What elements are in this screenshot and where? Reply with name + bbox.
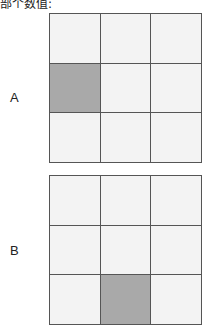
shaded-cell bbox=[101, 275, 151, 324]
cell bbox=[101, 113, 151, 162]
cell bbox=[151, 226, 201, 275]
cell bbox=[151, 275, 201, 324]
cell bbox=[50, 176, 100, 225]
caption-text: 部个数值: bbox=[0, 0, 52, 11]
cell bbox=[151, 64, 201, 113]
cell bbox=[151, 14, 201, 63]
label-b: B bbox=[10, 243, 19, 258]
cell bbox=[50, 113, 100, 162]
cell bbox=[101, 226, 151, 275]
label-a: A bbox=[10, 90, 19, 105]
cell bbox=[101, 14, 151, 63]
cell bbox=[151, 113, 201, 162]
grid-b bbox=[49, 175, 202, 325]
cell bbox=[50, 226, 100, 275]
shaded-cell bbox=[50, 64, 100, 113]
cell bbox=[50, 275, 100, 324]
cell bbox=[151, 176, 201, 225]
cell bbox=[101, 176, 151, 225]
cell bbox=[101, 64, 151, 113]
grid-a bbox=[49, 13, 202, 163]
cell bbox=[50, 14, 100, 63]
